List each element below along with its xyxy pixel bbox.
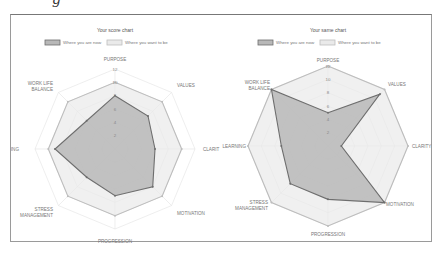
legend-swatch-now (45, 40, 60, 45)
legend-label-want: Where you want to be (125, 40, 168, 45)
legend-label-want: Where you want to be (338, 40, 381, 45)
data-point (114, 215, 116, 217)
data-point (327, 112, 329, 114)
data-point (327, 198, 329, 200)
category-label: MOTIVATION (177, 211, 205, 216)
category-label: PROGRESSION (311, 232, 345, 237)
category-label: ARNING (11, 147, 19, 152)
category-label: CLARITY (412, 144, 431, 149)
category-label: STRESSMANAGEMENT (20, 207, 53, 218)
data-point (161, 195, 163, 197)
data-point (181, 148, 183, 150)
data-point (247, 145, 249, 147)
data-point (86, 176, 88, 178)
category-label: MOTIVATION (386, 202, 414, 207)
data-point (327, 225, 329, 227)
category-label: WORK LIFEBALANCE (245, 80, 270, 91)
chart-legend: Where you are nowWhere you want to be (258, 40, 381, 45)
data-point (67, 195, 69, 197)
legend-label-now: Where you are now (276, 40, 315, 45)
radar-chart-1: Your score chartWhere you are nowWhere y… (11, 27, 220, 243)
data-point (147, 115, 149, 117)
data-point (114, 195, 116, 197)
category-label: STRESSMANAGEMENT (235, 200, 268, 211)
category-label: PROGRESSION (98, 239, 132, 243)
data-point (340, 145, 342, 147)
data-point (379, 93, 381, 95)
tick-label: 12 (113, 67, 118, 72)
legend-swatch-want (107, 40, 122, 45)
data-point (152, 186, 154, 188)
radar-chart-2: Your same chartWhere you are nowWhere yo… (223, 27, 432, 237)
data-point (161, 101, 163, 103)
data-point (86, 120, 88, 122)
data-point (280, 145, 282, 147)
category-label: VALUES (177, 83, 195, 88)
radar-charts: Your score chartWhere you are nowWhere y… (11, 15, 433, 243)
tick-label: 10 (113, 80, 118, 85)
legend-swatch-want (320, 40, 335, 45)
tick-label: 10 (326, 77, 331, 82)
tick-label: 12 (326, 64, 331, 69)
chart-legend: Where you are nowWhere you want to be (45, 40, 168, 45)
data-point (289, 183, 291, 185)
category-label: WORK LIFEBALANCE (28, 81, 53, 92)
legend-label-now: Where you are now (63, 40, 102, 45)
category-label: PURPOSE (104, 57, 126, 62)
category-label: VALUES (388, 82, 406, 87)
header-text-fragment: g (52, 0, 61, 7)
data-point (270, 88, 272, 90)
category-label: LEARNING (223, 144, 247, 149)
data-point (67, 101, 69, 103)
legend-swatch-now (258, 40, 273, 45)
data-point (154, 148, 156, 150)
data-point (384, 88, 386, 90)
data-point (47, 148, 49, 150)
chart-title: Your score chart (97, 27, 134, 33)
data-point (54, 148, 56, 150)
charts-panel: Your score chartWhere you are nowWhere y… (10, 14, 432, 242)
chart-title: Your same chart (310, 27, 347, 33)
data-point (407, 145, 409, 147)
category-label: CLARIT (203, 147, 220, 152)
data-point (270, 202, 272, 204)
category-label: PURPOSE (317, 58, 339, 63)
